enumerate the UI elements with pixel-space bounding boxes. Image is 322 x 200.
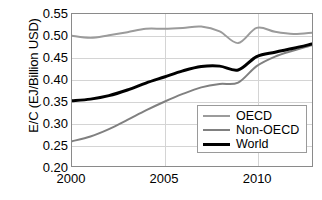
- legend-item: World: [203, 137, 306, 151]
- plot-area: OECDNon-OECDWorld: [71, 13, 313, 167]
- y-axis-tick-labels: 0.200.250.300.350.400.450.500.55: [22, 0, 68, 200]
- legend-item-label: Non-OECD: [236, 124, 299, 137]
- y-axis-tick-label: 0.35: [26, 95, 68, 108]
- y-axis-tick-label: 0.55: [26, 7, 68, 20]
- y-axis-tick-label: 0.40: [26, 73, 68, 86]
- x-axis-tick-label: 2000: [46, 172, 96, 185]
- y-axis-tick-label: 0.30: [26, 117, 68, 130]
- x-axis-tick-label: 2010: [232, 172, 282, 185]
- legend-swatch-line-icon: [203, 143, 230, 146]
- legend-item-label: World: [236, 138, 268, 151]
- chart-legend: OECDNon-OECDWorld: [197, 105, 307, 153]
- legend-item: OECD: [203, 109, 306, 123]
- legend-item: Non-OECD: [203, 123, 306, 137]
- legend-item-label: OECD: [236, 110, 272, 123]
- series-line-world: [72, 44, 312, 101]
- y-axis-tick-label: 0.25: [26, 139, 68, 152]
- y-axis-tick-label: 0.50: [26, 29, 68, 42]
- chart-figure: E/C (EJ/Billion USD) 0.200.250.300.350.4…: [0, 0, 322, 200]
- legend-swatch-line-icon: [203, 115, 230, 117]
- legend-swatch-line-icon: [203, 129, 230, 131]
- x-axis-tick-labels: 200020052010: [0, 172, 322, 194]
- x-axis-tick-label: 2005: [139, 172, 189, 185]
- series-line-oecd: [72, 26, 312, 43]
- y-axis-tick-label: 0.45: [26, 51, 68, 64]
